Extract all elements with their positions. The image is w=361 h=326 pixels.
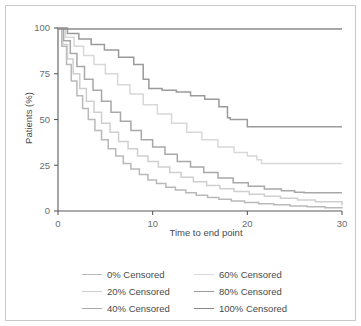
y-tick-label: 100 [34, 22, 50, 33]
series-line [58, 28, 342, 206]
y-tick-label: 25 [39, 160, 50, 171]
legend-item[interactable]: 80% Censored [194, 283, 307, 300]
legend-item[interactable]: 100% Censored [194, 300, 307, 317]
legend-item[interactable]: 40% Censored [82, 300, 194, 317]
legend-swatch-icon [82, 308, 102, 309]
legend-swatch-icon [194, 274, 214, 275]
series-line [58, 28, 342, 193]
legend-label: 20% Censored [107, 286, 170, 297]
axis-lines [58, 28, 342, 212]
x-axis-title: Time to end point [169, 227, 242, 238]
chart-legend: 0% Censored60% Censored20% Censored80% C… [82, 266, 307, 317]
legend-item[interactable]: 60% Censored [194, 266, 307, 283]
y-axis-title: Patients (%) [23, 92, 34, 144]
legend-swatch-icon [82, 274, 102, 275]
y-tick-label: 50 [39, 114, 50, 125]
x-tick-label: 30 [337, 218, 348, 229]
chart-plot-area: Patients (%) 0255075100 0102030 Time to … [0, 0, 361, 240]
legend-label: 40% Censored [107, 303, 170, 314]
legend-item[interactable]: 20% Censored [82, 283, 194, 300]
y-tick-label: 75 [39, 68, 50, 79]
legend-swatch-icon [82, 291, 102, 292]
legend-swatch-icon [194, 308, 214, 309]
x-tick-label: 10 [147, 218, 158, 229]
kaplan-meier-chart: Patients (%) 0255075100 0102030 Time to … [0, 0, 361, 240]
legend-item[interactable]: 0% Censored [82, 266, 194, 283]
legend-label: 100% Censored [219, 303, 287, 314]
legend-label: 80% Censored [219, 286, 282, 297]
x-tick-label: 0 [55, 218, 60, 229]
legend-swatch-icon [194, 291, 214, 292]
figure-container: Patients (%) 0255075100 0102030 Time to … [0, 0, 361, 326]
chart-series-group [58, 28, 342, 208]
legend-label: 60% Censored [219, 269, 282, 280]
legend-label: 0% Censored [107, 269, 165, 280]
x-tick-label: 20 [242, 218, 253, 229]
y-axis-ticks: 0255075100 [34, 22, 58, 216]
y-tick-label: 0 [45, 205, 50, 216]
